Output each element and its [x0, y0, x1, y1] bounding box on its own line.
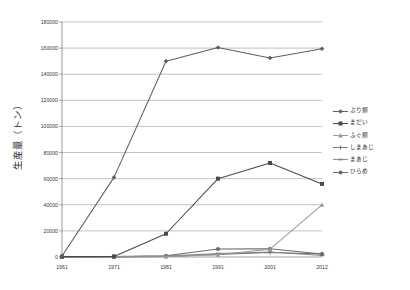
legend-item-label: しまあじ: [349, 145, 374, 151]
y-tick-label: 140000: [18, 71, 58, 77]
y-tick-label: 100000: [18, 123, 58, 129]
legend-item-label: ひらめ: [349, 169, 368, 175]
gridlines: [62, 22, 322, 257]
legend-item-1[interactable]: まだい: [332, 117, 408, 129]
x-tick-label: 1991: [212, 264, 224, 270]
x-tick-label: 1981: [160, 264, 172, 270]
legend-item-4[interactable]: まあじ: [332, 154, 408, 166]
legend-marker-icon: [332, 107, 349, 116]
legend-marker-icon: [332, 119, 349, 128]
legend-item-5[interactable]: ひらめ: [332, 166, 408, 178]
y-tick-label: 0: [18, 254, 58, 260]
y-tick-label: 80000: [18, 150, 58, 156]
legend-item-label: まだい: [349, 120, 368, 126]
y-tick-label: 160000: [18, 45, 58, 51]
x-tick-label: 1961: [56, 264, 68, 270]
axis-lines: [59, 22, 62, 257]
legend-marker-icon: [332, 155, 349, 164]
legend-item-3[interactable]: しまあじ: [332, 142, 408, 154]
y-tick-label: 40000: [18, 202, 58, 208]
y-axis-title: 生産量（トン）: [10, 85, 24, 185]
y-tick-label: 180000: [18, 19, 58, 25]
chart-legend: ぶり類まだいふぐ類しまあじまあじひらめ: [332, 105, 408, 178]
legend-item-label: まあじ: [349, 157, 368, 163]
x-tick-label: 2001: [264, 264, 276, 270]
legend-marker-icon: [332, 131, 349, 140]
data-series: [60, 45, 325, 259]
line-chart: 0200004000060000800001000001200001400001…: [0, 0, 410, 290]
legend-item-2[interactable]: ふぐ類: [332, 129, 408, 141]
x-tick-label: 1971: [108, 264, 120, 270]
y-tick-label: 120000: [18, 97, 58, 103]
y-tick-label: 60000: [18, 176, 58, 182]
legend-item-label: ふぐ類: [349, 133, 368, 139]
x-tick-label: 2012: [316, 264, 328, 270]
legend-item-label: ぶり類: [349, 108, 368, 114]
y-tick-label: 20000: [18, 228, 58, 234]
series-1: [60, 161, 324, 259]
legend-marker-icon: [332, 143, 349, 152]
legend-item-0[interactable]: ぶり類: [332, 105, 408, 117]
series-0: [60, 45, 325, 258]
legend-marker-icon: [332, 168, 349, 177]
